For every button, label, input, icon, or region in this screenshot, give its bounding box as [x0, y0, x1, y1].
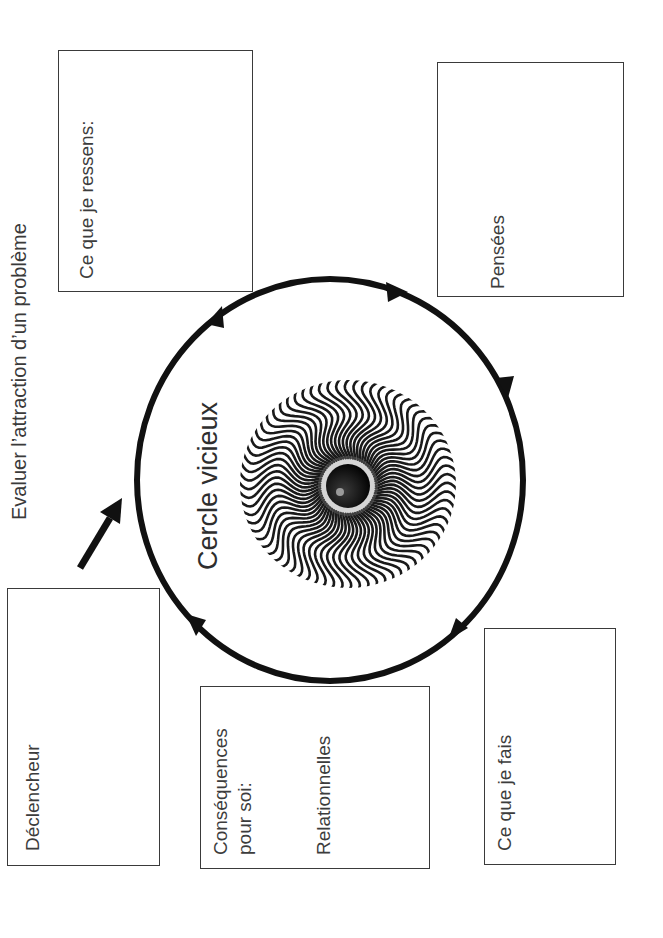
arrowhead-top-right-icon — [386, 282, 408, 302]
trigger-arrow-icon — [80, 498, 122, 568]
center-label: Cercle vicieux — [195, 402, 222, 570]
eye-pupil-icon — [326, 464, 370, 508]
cycle-diagram — [0, 0, 663, 938]
